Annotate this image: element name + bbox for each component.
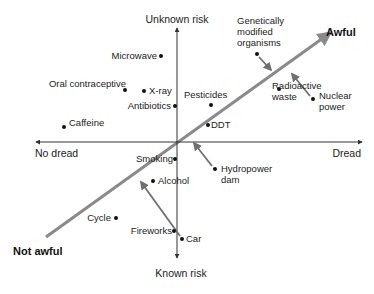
label-pesticides: Pesticides [184, 89, 228, 100]
label-cycle: Cycle [87, 212, 111, 223]
label-hydropower-line2: dam [221, 174, 240, 185]
point-car [180, 237, 184, 241]
label-hydropower-line1: Hydropower [221, 163, 272, 174]
axis-label-no-dread: No dread [35, 147, 78, 159]
label-fireworks: Fireworks [131, 225, 172, 236]
label-gmo-line2: modified [237, 26, 273, 37]
point-genetically-modified-organisms [255, 52, 259, 56]
point-pesticides [209, 103, 213, 107]
label-waste: waste [271, 91, 297, 102]
point-alcohol [151, 179, 155, 183]
label-not-awful: Not awful [13, 245, 63, 257]
label-microwave: Microwave [112, 50, 157, 61]
label-x-ray: X-ray [149, 85, 172, 96]
hydro-arrow [194, 143, 212, 166]
point-antibiotics [173, 104, 177, 108]
label-awful: Awful [326, 26, 356, 38]
gmo-arrow [259, 57, 271, 70]
label-ddt: DDT [211, 119, 231, 130]
label-alcohol: Alcohol [158, 175, 189, 186]
label-gmo-line3: organisms [237, 37, 281, 48]
label-radioactive: Radioactive [272, 80, 322, 91]
axis-label-dread: Dread [332, 147, 361, 159]
risk-perception-diagram: Unknown risk Known risk No dread Dread A… [0, 0, 374, 294]
axis-label-unknown-risk: Unknown risk [145, 13, 209, 25]
label-car: Car [186, 233, 201, 244]
label-antibiotics: Antibiotics [128, 100, 172, 111]
axis-label-known-risk: Known risk [155, 267, 207, 279]
label-nuclear-line1: Nuclear [319, 90, 352, 101]
point-nuclear-power [311, 97, 315, 101]
point-caffeine [62, 125, 66, 129]
point-fireworks [172, 229, 176, 233]
point-hydropower-dam [213, 167, 217, 171]
point-cycle [114, 216, 118, 220]
point-ddt [206, 123, 210, 127]
point-smoking [173, 157, 177, 161]
label-nuclear-line2: power [319, 101, 345, 112]
label-smoking: Smoking [136, 153, 173, 164]
label-oral-contraceptive: Oral contraceptive [49, 78, 126, 89]
awfulness-diagonal-arrow [46, 33, 330, 237]
point-microwave [159, 54, 163, 58]
label-caffeine: Caffeine [69, 117, 104, 128]
point-x-ray [142, 89, 146, 93]
label-gmo-line1: Genetically [237, 15, 284, 26]
